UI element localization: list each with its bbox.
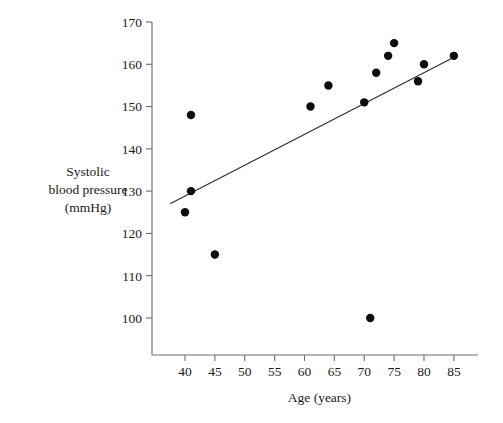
data-point bbox=[420, 60, 428, 68]
data-point bbox=[390, 39, 398, 47]
data-point bbox=[181, 208, 189, 216]
data-point bbox=[450, 52, 458, 60]
x-tick-label: 80 bbox=[417, 364, 431, 379]
y-axis-title: Systolicblood pressure(mmHg) bbox=[48, 164, 127, 215]
data-points bbox=[181, 39, 458, 322]
x-tick-label: 50 bbox=[238, 364, 252, 379]
scatter-plot: 100110120130140150160170 404550556065707… bbox=[0, 0, 503, 423]
x-tick-label: 70 bbox=[358, 364, 372, 379]
data-point bbox=[187, 187, 195, 195]
data-point bbox=[366, 314, 374, 322]
y-tick-label: 170 bbox=[122, 15, 143, 30]
x-tick-label: 65 bbox=[328, 364, 342, 379]
data-point bbox=[187, 111, 195, 119]
x-tick-label: 75 bbox=[387, 364, 401, 379]
y-tick-label: 120 bbox=[122, 226, 143, 241]
y-tick-label: 140 bbox=[122, 142, 143, 157]
data-point bbox=[324, 81, 332, 89]
x-tick-label: 40 bbox=[178, 364, 192, 379]
y-tick-label: 110 bbox=[122, 269, 142, 284]
y-tick-label: 160 bbox=[122, 57, 143, 72]
data-point bbox=[372, 69, 380, 77]
y-axis-ticks: 100110120130140150160170 bbox=[122, 15, 152, 326]
x-tick-label: 45 bbox=[208, 364, 222, 379]
y-tick-label: 100 bbox=[122, 311, 143, 326]
x-axis-ticks: 40455055606570758085 bbox=[178, 355, 461, 379]
data-point bbox=[384, 52, 392, 60]
x-axis-title: Age (years) bbox=[288, 390, 351, 405]
data-point bbox=[414, 77, 422, 85]
regression-line bbox=[170, 56, 457, 204]
data-point bbox=[306, 102, 314, 110]
x-tick-label: 85 bbox=[447, 364, 461, 379]
x-axis-title: Age (years) bbox=[288, 390, 351, 405]
x-tick-label: 55 bbox=[268, 364, 282, 379]
y-axis-title-line: blood pressure bbox=[48, 182, 127, 197]
y-axis-title-line: Systolic bbox=[66, 164, 110, 179]
data-point bbox=[360, 98, 368, 106]
chart-page: 100110120130140150160170 404550556065707… bbox=[0, 0, 503, 423]
y-axis-title-line: (mmHg) bbox=[65, 200, 112, 215]
y-tick-label: 150 bbox=[122, 99, 143, 114]
x-tick-label: 60 bbox=[298, 364, 312, 379]
data-point bbox=[211, 250, 219, 258]
